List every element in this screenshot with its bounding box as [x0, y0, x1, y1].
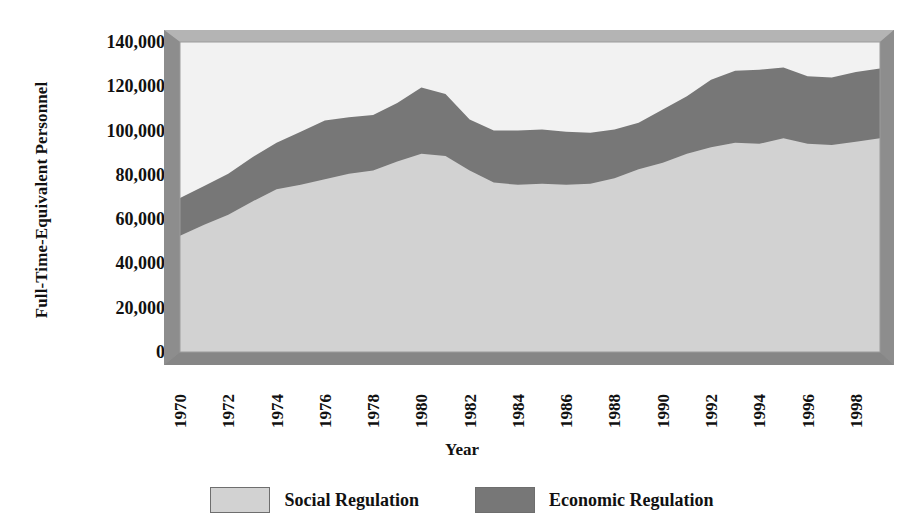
x-tick-label: 1998: [848, 394, 865, 428]
x-tick-label: 1976: [317, 394, 334, 428]
y-tick-label: 40,000: [60, 254, 165, 272]
legend-label-economic: Economic Regulation: [549, 490, 714, 511]
legend-label-social: Social Regulation: [284, 490, 419, 511]
plot-area: [164, 30, 894, 365]
y-tick-label: 80,000: [60, 166, 165, 184]
x-tick-label: 1994: [751, 394, 768, 428]
x-tick-label: 1980: [413, 394, 430, 428]
frame-bottom-bevel: [164, 352, 894, 365]
x-tick-label: 1992: [703, 394, 720, 428]
x-axis-title: Year: [0, 440, 924, 460]
x-tick-label: 1978: [365, 394, 382, 428]
frame-left-bevel: [164, 30, 180, 365]
x-tick-label: 1974: [269, 394, 286, 428]
x-tick-label: 1972: [220, 394, 237, 428]
frame-top-bevel: [164, 30, 894, 42]
y-axis-title: Full-Time-Equivalent Personnel: [32, 40, 52, 360]
y-axis-tick-labels: 140,000120,000100,00080,00060,00040,0002…: [60, 0, 165, 400]
x-tick-label: 1970: [172, 394, 189, 428]
x-tick-label: 1990: [655, 394, 672, 428]
chart-figure: Full-Time-Equivalent Personnel 140,00012…: [0, 0, 924, 529]
legend-entry-economic: Economic Regulation: [475, 487, 714, 513]
y-tick-label: 100,000: [60, 122, 165, 140]
y-tick-label: 60,000: [60, 210, 165, 228]
y-tick-label: 0: [60, 343, 165, 361]
legend-swatch-economic: [475, 487, 535, 513]
chart-legend: Social Regulation Economic Regulation: [0, 487, 924, 513]
y-tick-label: 120,000: [60, 77, 165, 95]
x-tick-label: 1982: [462, 394, 479, 428]
x-tick-label: 1988: [606, 394, 623, 428]
x-tick-label: 1984: [510, 394, 527, 428]
legend-swatch-social: [210, 487, 270, 513]
x-tick-label: 1986: [558, 394, 575, 428]
legend-entry-social: Social Regulation: [210, 487, 419, 513]
y-tick-label: 140,000: [60, 33, 165, 51]
y-tick-label: 20,000: [60, 299, 165, 317]
frame-right-bevel: [880, 30, 894, 365]
x-tick-label: 1996: [800, 394, 817, 428]
